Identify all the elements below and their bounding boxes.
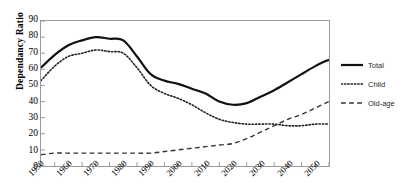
y-axis-tick-labels: 9080706050403020100: [14, 14, 38, 174]
dependency-ratio-chart: Dependancy Ratio 9080706050403020100 195…: [0, 0, 404, 193]
y-tick-label: 80: [14, 31, 38, 41]
x-axis-tick-labels: 1950196019701980199020002010202020302040…: [0, 168, 404, 193]
legend-item-child[interactable]: Child: [341, 77, 404, 91]
legend-swatch-dotted: [341, 80, 363, 88]
legend: TotalChildOld-age: [341, 58, 404, 115]
series-line-old-age: [41, 102, 329, 155]
y-tick-label: 90: [14, 15, 38, 25]
y-tick-label: 40: [14, 97, 38, 107]
y-tick-label: 30: [14, 113, 38, 123]
series-line-total: [41, 37, 329, 105]
legend-label: Child: [368, 80, 385, 89]
legend-item-total[interactable]: Total: [341, 58, 404, 72]
y-tick-label: 20: [14, 129, 38, 139]
plot-lines-svg: [41, 21, 329, 166]
y-tick-label: 60: [14, 64, 38, 74]
legend-label: Total: [368, 61, 384, 70]
series-line-child: [41, 50, 329, 126]
legend-item-old-age[interactable]: Old-age: [341, 96, 404, 110]
legend-label: Old-age: [368, 99, 395, 108]
plot-area: [40, 20, 330, 167]
legend-swatch-dashed: [341, 99, 363, 107]
y-tick-label: 70: [14, 48, 38, 58]
y-tick-label: 50: [14, 80, 38, 90]
legend-swatch-solid: [341, 61, 363, 69]
y-tick-label: 10: [14, 146, 38, 156]
